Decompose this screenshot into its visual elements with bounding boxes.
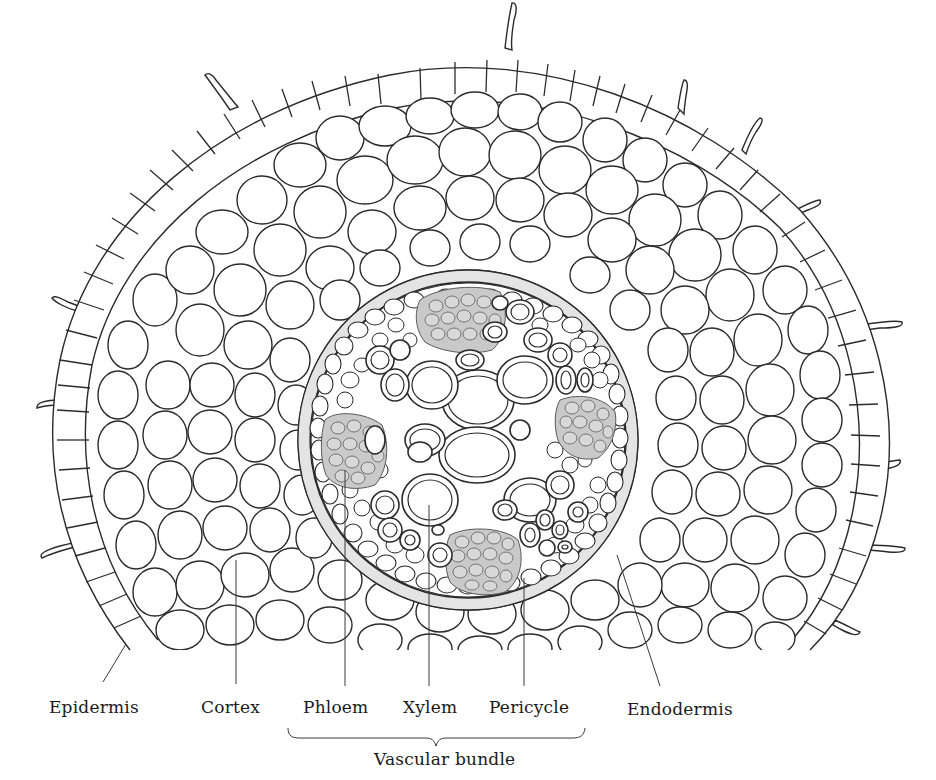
label-epidermis: Epidermis (49, 697, 139, 717)
label-pericycle: Pericycle (489, 697, 569, 717)
phloem-right (555, 396, 616, 459)
phloem-top (416, 287, 505, 352)
label-vascular-bundle: Vascular bundle (374, 749, 515, 769)
label-cortex: Cortex (201, 697, 260, 717)
label-xylem: Xylem (403, 697, 457, 717)
phloem-bottom (446, 529, 522, 595)
label-endodermis: Endodermis (627, 699, 733, 719)
label-phloem: Phloem (303, 697, 368, 717)
root-cross-section-diagram: Epidermis Cortex Phloem Xylem Pericycle … (0, 0, 936, 780)
